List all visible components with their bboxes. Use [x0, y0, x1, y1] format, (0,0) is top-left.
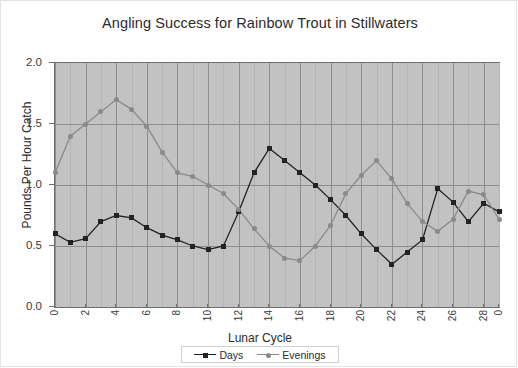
data-point: [190, 244, 195, 249]
data-point: [221, 191, 226, 196]
x-axis-tick-label: 24: [417, 310, 427, 321]
y-axis-tick-label: 1.0: [26, 178, 42, 190]
data-point: [53, 231, 58, 236]
data-point: [160, 150, 165, 155]
data-point: [114, 213, 119, 218]
data-point: [451, 200, 456, 205]
data-point: [129, 107, 134, 112]
x-axis-tick-label: 22: [387, 310, 397, 321]
x-axis-tick-mark: [238, 304, 239, 308]
data-point: [451, 217, 456, 222]
data-point: [374, 247, 379, 252]
x-axis-tick-mark: [299, 304, 300, 308]
data-point: [282, 158, 287, 163]
series-svg: [55, 63, 499, 307]
x-axis-tick-label: 12: [234, 310, 244, 321]
data-point: [466, 189, 471, 194]
x-axis-tick-mark: [452, 304, 453, 308]
data-point: [144, 225, 149, 230]
series-line-days: [55, 148, 499, 264]
x-axis-tick-mark: [498, 304, 499, 308]
data-point: [267, 146, 272, 151]
x-axis-tick-label: 26: [448, 310, 458, 321]
x-axis-tick-mark: [146, 304, 147, 308]
data-point: [313, 244, 318, 249]
data-point: [252, 170, 257, 175]
x-axis-tick-label: 28: [479, 310, 489, 321]
data-point: [267, 244, 272, 249]
x-axis-tick-label: 2: [81, 310, 91, 316]
series-line-evenings: [55, 100, 499, 261]
data-point: [83, 122, 88, 127]
data-point: [313, 183, 318, 188]
chart-frame: Angling Success for Rainbow Trout in Sti…: [0, 0, 517, 367]
y-axis-tick-label: 2.0: [26, 56, 42, 68]
data-point: [405, 250, 410, 255]
x-axis-tick-label: 8: [172, 310, 182, 316]
data-point: [389, 262, 394, 267]
x-axis-tick-mark: [115, 304, 116, 308]
data-point: [282, 256, 287, 261]
data-point: [221, 244, 226, 249]
x-axis-tick-label: 6: [142, 310, 152, 316]
data-point: [206, 247, 211, 252]
chart-legend: Days Evenings: [181, 346, 339, 363]
data-point: [359, 173, 364, 178]
data-point: [83, 236, 88, 241]
data-point: [343, 213, 348, 218]
y-axis-tick-label: 1.5: [26, 117, 42, 129]
data-point: [114, 97, 119, 102]
y-axis-tick-label: 0.5: [26, 239, 42, 251]
x-axis-tick-mark: [391, 304, 392, 308]
data-point: [206, 183, 211, 188]
x-axis-tick-label: 0: [494, 310, 504, 316]
x-axis-tick-label: 16: [295, 310, 305, 321]
data-point: [129, 215, 134, 220]
data-point: [420, 237, 425, 242]
x-axis-tick-mark: [330, 304, 331, 308]
y-axis-tick-label: 0.0: [26, 300, 42, 312]
x-axis-tick-label: 14: [264, 310, 274, 321]
legend-label-evenings: Evenings: [282, 349, 325, 361]
days-line-swatch: [194, 350, 216, 359]
data-point: [328, 223, 333, 228]
data-point: [160, 233, 165, 238]
x-axis-tick-label: 20: [356, 310, 366, 321]
x-axis-tick-mark: [483, 304, 484, 308]
data-point: [359, 231, 364, 236]
data-point: [68, 134, 73, 139]
legend-item-days[interactable]: Days: [194, 349, 243, 361]
x-axis-tick-mark: [268, 304, 269, 308]
x-axis-tick-mark: [54, 304, 55, 308]
plot-area: [54, 62, 500, 308]
x-axis-tick-mark: [421, 304, 422, 308]
data-point: [68, 240, 73, 245]
legend-item-evenings[interactable]: Evenings: [257, 349, 325, 361]
x-axis-tick-label: 18: [326, 310, 336, 321]
y-axis: Pounds Per Hour Catch 0.00.51.01.52.0: [1, 53, 48, 317]
chart-title: Angling Success for Rainbow Trout in Sti…: [1, 15, 518, 31]
vertical-gridline: [499, 63, 500, 307]
x-axis-tick-mark: [207, 304, 208, 308]
data-point: [53, 170, 58, 175]
data-point: [481, 201, 486, 206]
data-point: [328, 197, 333, 202]
evenings-line-swatch: [257, 350, 279, 359]
x-axis-tick-mark: [360, 304, 361, 308]
x-axis-tick-label: 10: [203, 310, 213, 321]
data-point: [435, 186, 440, 191]
x-axis-title: Lunar Cycle: [1, 331, 518, 345]
data-point: [98, 219, 103, 224]
x-axis-tick-label: 4: [111, 310, 121, 316]
data-point: [405, 201, 410, 206]
data-point: [420, 219, 425, 224]
data-series-layer: [55, 63, 499, 307]
x-axis-tick-mark: [85, 304, 86, 308]
data-point: [175, 237, 180, 242]
x-axis-tick-mark: [176, 304, 177, 308]
data-point: [297, 170, 302, 175]
x-axis-tick-label: 0: [50, 310, 60, 316]
legend-label-days: Days: [219, 349, 243, 361]
data-point: [497, 217, 502, 222]
data-point: [466, 219, 471, 224]
